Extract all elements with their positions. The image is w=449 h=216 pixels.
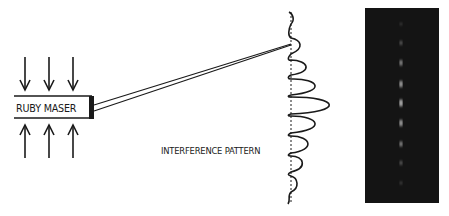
pump-arrows-bottom [20,125,78,158]
interference-intensity-curve [288,12,329,204]
interference-pattern-label: INTERFERENCE PATTERN [161,146,260,156]
interference-photo [365,8,439,203]
maser-end-mirror [89,96,94,119]
maser-beams [94,44,291,111]
ruby-maser: RUBY MASER [14,96,94,119]
pump-arrows-top [20,57,78,90]
ruby-maser-label: RUBY MASER [16,103,77,114]
maser-interference-diagram: RUBY MASER INTERFERENCE PATTERN [0,0,449,216]
